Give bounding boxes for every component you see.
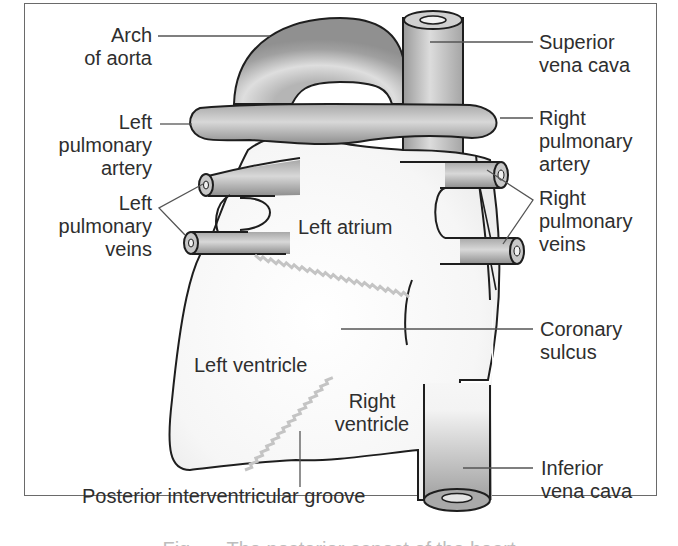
label-superior-vena-cava: Superior vena cava	[539, 31, 659, 77]
label-right-pulmonary-veins: Right pulmonary veins	[539, 187, 659, 256]
label-left-pulmonary-veins: Left pulmonary veins	[40, 192, 152, 261]
label-posterior-interventricular-groove: Posterior interventricular groove	[82, 485, 365, 508]
label-line: sulcus	[540, 341, 660, 364]
label-line: vena cava	[541, 480, 661, 503]
label-line: Right	[322, 390, 422, 413]
label-line: artery	[40, 157, 152, 180]
arch-of-aorta-shape	[234, 18, 404, 104]
label-line: Left	[40, 192, 152, 215]
superior-vena-cava-shape	[403, 11, 463, 163]
label-arch-of-aorta: Arch of aorta	[40, 24, 152, 70]
label-line: pulmonary	[539, 210, 659, 233]
label-right-pulmonary-artery: Right pulmonary artery	[539, 107, 659, 176]
label-line: artery	[539, 153, 659, 176]
label-line: veins	[40, 238, 152, 261]
caption-text: Fig. — The posterior aspect of the heart	[0, 537, 678, 546]
label-line: vena cava	[539, 54, 659, 77]
label-coronary-sulcus: Coronary sulcus	[540, 318, 660, 364]
label-left-atrium: Left atrium	[298, 216, 392, 239]
label-left-ventricle: Left ventricle	[194, 354, 307, 377]
label-line: Superior	[539, 31, 659, 54]
label-line: ventricle	[322, 413, 422, 436]
label-inferior-vena-cava: Inferior vena cava	[541, 457, 661, 503]
label-line: Right	[539, 107, 659, 130]
label-line: pulmonary	[40, 134, 152, 157]
figure-caption: Fig. — The posterior aspect of the heart	[0, 534, 678, 546]
label-line: Inferior	[541, 457, 661, 480]
label-line: Left	[40, 111, 152, 134]
label-line: pulmonary	[539, 130, 659, 153]
label-right-ventricle: Right ventricle	[322, 390, 422, 436]
label-line: Coronary	[540, 318, 660, 341]
label-line: pulmonary	[40, 215, 152, 238]
label-left-pulmonary-artery: Left pulmonary artery	[40, 111, 152, 180]
label-line: veins	[539, 233, 659, 256]
label-line: of aorta	[40, 47, 152, 70]
label-line: Arch	[40, 24, 152, 47]
label-line: Right	[539, 187, 659, 210]
